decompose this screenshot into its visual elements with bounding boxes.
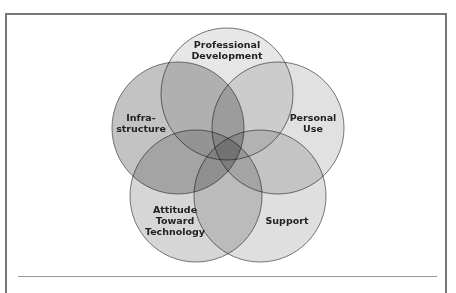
label-professional-development: ProfessionalDevelopment: [191, 39, 263, 61]
label-support: Support: [266, 215, 309, 226]
